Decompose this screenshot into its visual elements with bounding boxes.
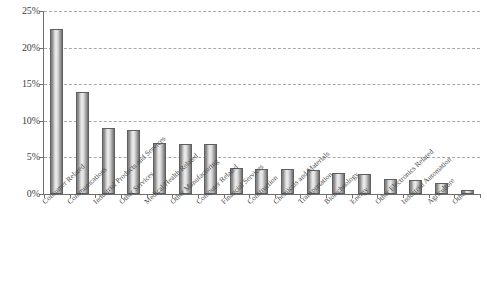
y-axis-tick-label-5: 25% [22,6,40,16]
bar-slot [147,11,173,194]
x-axis-tickmark [121,194,122,198]
bar-slot [326,11,352,194]
y-axis: 0% 5% 10% 15% 20% 25% [0,11,40,194]
x-axis-tickmark [198,194,199,198]
bar-slot [275,11,301,194]
bar-slot [454,11,480,194]
x-axis-tickmark [429,194,430,198]
x-axis-tickmark [480,194,481,198]
x-axis-tickmark [275,194,276,198]
bar-chart: 0% 5% 10% 15% 20% 25% Consumer RelatedCo… [0,0,487,303]
x-axis-tickmark [352,194,353,198]
bar-slot [377,11,403,194]
x-axis-tickmark [172,194,173,198]
y-axis-tick-label-3: 15% [22,79,40,89]
x-axis-tickmark [44,194,45,198]
y-axis-tick-label-2: 10% [22,116,40,126]
x-axis-tickmark [326,194,327,198]
x-axis-tickmark [454,194,455,198]
x-axis-tickmark [95,194,96,198]
x-axis-tickmark [70,194,71,198]
bar-slot [44,11,70,194]
x-axis-tickmark [147,194,148,198]
x-axis-tickmark [249,194,250,198]
y-axis-tick-label-4: 20% [22,43,40,53]
bar[interactable] [50,29,63,194]
bar-slot [352,11,378,194]
x-axis-tickmark [224,194,225,198]
x-axis-tickmark [403,194,404,198]
x-axis-tickmark [300,194,301,198]
x-axis-tickmark [377,194,378,198]
